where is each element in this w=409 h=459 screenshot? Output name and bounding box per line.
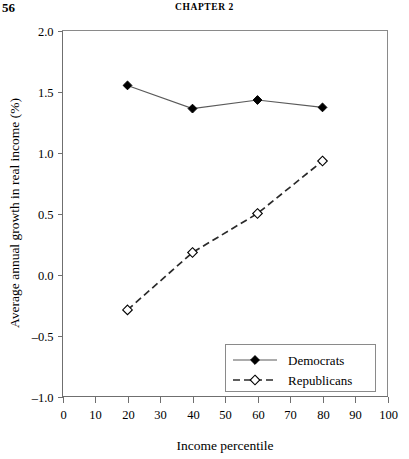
- x-tick-label: 0: [60, 408, 66, 422]
- x-axis: 0102030405060708090100: [60, 397, 398, 422]
- y-tick-label: 1.0: [38, 147, 54, 161]
- x-tick-label: 20: [122, 408, 135, 422]
- x-tick-label: 10: [89, 408, 102, 422]
- figure-page: 56 CHAPTER 2 2.01.51.00.50.0–0.5–1.0 010…: [0, 0, 409, 459]
- x-tick-label: 100: [379, 408, 398, 422]
- x-tick-label: 30: [154, 408, 167, 422]
- y-axis: 2.01.51.00.50.0–0.5–1.0: [31, 25, 63, 405]
- y-tick-label: 1.5: [38, 86, 54, 100]
- y-tick-label: 2.0: [38, 25, 54, 39]
- x-axis-title: Income percentile: [176, 438, 273, 453]
- chapter-title: CHAPTER 2: [0, 2, 409, 12]
- y-tick-label: 0.5: [38, 208, 54, 222]
- running-head: 56 CHAPTER 2: [0, 0, 409, 22]
- y-tick-label: 0.0: [38, 269, 54, 283]
- x-tick-label: 60: [252, 408, 265, 422]
- chart-figure: 2.01.51.00.50.0–0.5–1.0 0102030405060708…: [0, 22, 409, 459]
- y-tick-label: –1.0: [31, 391, 54, 405]
- x-tick-label: 40: [187, 408, 200, 422]
- y-tick-label: –0.5: [31, 330, 54, 344]
- y-axis-title: Average annual growth in real income (%): [7, 98, 22, 328]
- x-tick-label: 50: [219, 408, 232, 422]
- line-chart: 2.01.51.00.50.0–0.5–1.0 0102030405060708…: [0, 22, 409, 459]
- x-tick-label: 70: [284, 408, 297, 422]
- chart-legend: Democrats Republicans: [226, 345, 376, 392]
- legend-label-republicans: Republicans: [288, 373, 352, 388]
- plot-area: [63, 31, 388, 397]
- x-tick-label: 90: [349, 408, 362, 422]
- legend-label-democrats: Democrats: [288, 353, 344, 368]
- x-tick-label: 80: [317, 408, 330, 422]
